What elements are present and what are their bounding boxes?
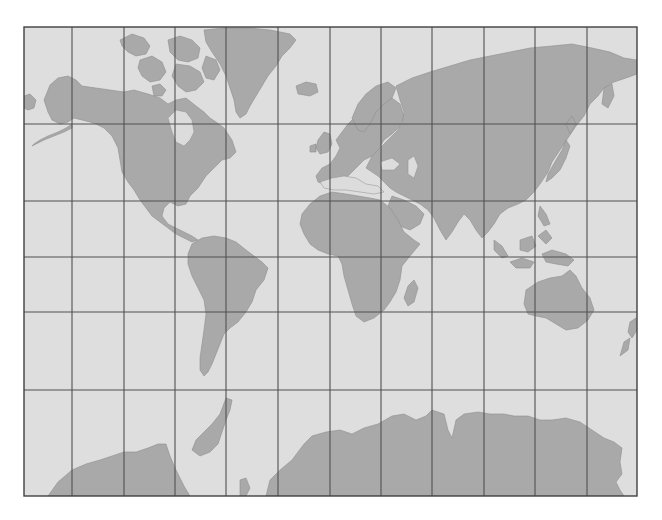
world-map[interactable] [0,0,662,520]
map-canvas[interactable] [0,0,662,520]
